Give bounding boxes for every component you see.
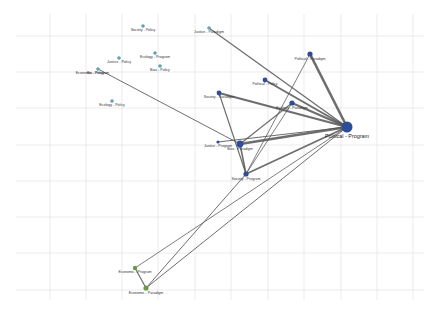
node-label-economic-program: Economic - Program [119, 271, 152, 275]
node-label-economic-paradigm: Economic - Paradigm [129, 292, 163, 296]
grid-lines [16, 14, 424, 300]
node-label-ecology-program: Ecology - Program [140, 56, 170, 60]
node-label-society-program: Society - Program [232, 178, 261, 182]
node-label-justice-policy: Justice - Policy [107, 61, 131, 65]
edge-society-paradigm-to-society-program [219, 93, 246, 174]
node-label-ecology-paradigm: Ecology - Paradigm [276, 107, 307, 111]
node-label-justice-paradigm: Justice - Paradigm [194, 31, 224, 35]
node-label-society-policy: Society - Policy [131, 29, 156, 33]
node-label-ecology-policy: Ecology - Policy [99, 104, 125, 108]
node-label-bias-policy: Bias - Policy [150, 69, 170, 73]
node-label-political-paradigm: Political - Paradigm [295, 58, 326, 62]
node-label-economic-policy: Economic - Policy [76, 72, 105, 76]
node-label-political-policy: Political - Policy [252, 83, 277, 87]
node-label-society-paradigm: Society - Paradigm [204, 96, 234, 100]
node-label-bias-paradigm: Bias - Paradigm [227, 148, 253, 152]
network-diagram: Society - PolicyJustice - ParadigmEcolog… [0, 0, 440, 313]
edge-justice-paradigm-to-political-program [209, 28, 347, 127]
node-label-political-program: Political - Program [325, 134, 369, 139]
node-bias-paradigm[interactable] [237, 141, 244, 148]
node-political-program[interactable] [342, 122, 353, 133]
edges [98, 28, 347, 288]
graph-svg [0, 0, 440, 313]
